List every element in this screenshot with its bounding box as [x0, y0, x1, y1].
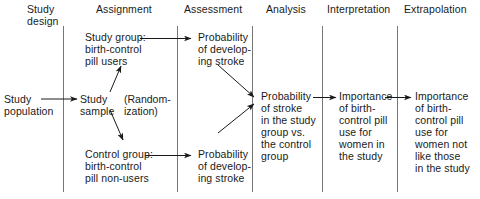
node-study-group: Study group: birth-control pill users [85, 31, 146, 67]
column-header-interpretation: Interpretation [327, 3, 390, 15]
column-header-assignment: Assignment [96, 3, 152, 15]
node-study-population: Study population [4, 93, 53, 117]
column-header-analysis: Analysis [266, 3, 306, 15]
arrow-assessment-study-to-analysis [218, 65, 254, 97]
node-probability-developing-stroke-control-group: Probability of develop- ing stroke [198, 148, 251, 184]
arrow-sample-to-study-group [110, 66, 121, 92]
column-header-assessment: Assessment [184, 3, 242, 15]
node-study-sample: Study sample [80, 93, 114, 117]
study-design-flow-diagram: Study design Assignment Assessment Analy… [0, 0, 480, 199]
node-probability-developing-stroke-study-group: Probability of develop- ing stroke [198, 31, 251, 67]
node-importance-for-women-in-study: Importance of birth- control pill use fo… [339, 90, 393, 162]
node-randomization: (Random- ization) [124, 93, 171, 117]
arrow-assessment-control-to-analysis [218, 104, 254, 133]
column-header-study-design: Study design [27, 3, 59, 27]
node-importance-for-women-not-in-study: Importance of birth- control pill use fo… [415, 90, 470, 174]
column-header-extrapolation: Extrapolation [404, 3, 467, 15]
node-control-group: Control group: birth-control pill non-us… [85, 148, 153, 184]
node-probability-stroke-study-vs-control: Probability of stroke in the study group… [261, 90, 316, 162]
